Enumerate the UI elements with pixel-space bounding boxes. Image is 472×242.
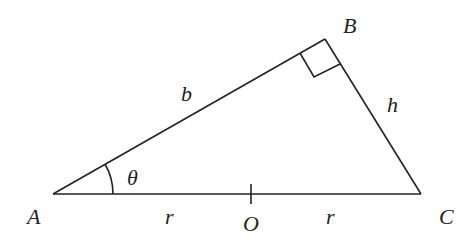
vertex-label-b: B: [343, 13, 356, 38]
side-ab: [53, 39, 325, 194]
vertex-label-c: C: [439, 204, 454, 229]
point-label-o: O: [243, 211, 259, 236]
angle-arc-theta: [105, 164, 113, 194]
side-label-r-right: r: [326, 204, 335, 229]
side-label-b: b: [181, 81, 192, 106]
triangle-diagram: A B C O b h r r θ: [0, 0, 472, 242]
angle-label-theta: θ: [127, 165, 138, 190]
side-label-r-left: r: [165, 204, 174, 229]
side-label-h: h: [387, 92, 398, 117]
right-angle-marker: [300, 53, 340, 77]
side-bc: [325, 39, 421, 194]
vertex-label-a: A: [25, 204, 41, 229]
diagram-svg: A B C O b h r r θ: [0, 0, 472, 242]
